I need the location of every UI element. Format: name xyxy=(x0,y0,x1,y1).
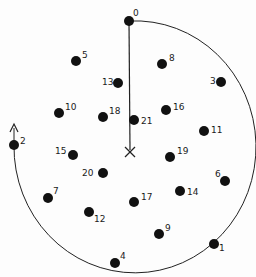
point-19: 19 xyxy=(165,146,189,162)
point-label: 3 xyxy=(210,76,216,86)
point-10: 10 xyxy=(54,102,77,118)
point-label: 10 xyxy=(65,102,77,112)
point-label: 16 xyxy=(173,102,185,112)
point-14: 14 xyxy=(175,186,199,197)
point-label: 13 xyxy=(102,77,113,87)
point-label: 2 xyxy=(20,136,26,146)
radius-line xyxy=(129,21,130,150)
point-dot xyxy=(129,197,139,207)
point-5: 5 xyxy=(71,50,88,66)
point-dot xyxy=(9,140,19,150)
point-dot xyxy=(84,207,94,217)
point-dot xyxy=(129,115,139,125)
tour-arc xyxy=(14,21,256,273)
point-label: 1 xyxy=(219,243,225,253)
point-2: 2 xyxy=(9,136,26,150)
point-dot xyxy=(165,152,175,162)
point-18: 18 xyxy=(98,106,121,122)
point-11: 11 xyxy=(199,125,222,136)
point-dot xyxy=(113,78,123,88)
point-16: 16 xyxy=(161,102,185,115)
point-dot xyxy=(43,193,53,203)
point-label: 4 xyxy=(120,251,126,261)
point-dot xyxy=(157,59,167,69)
point-7: 7 xyxy=(43,186,59,203)
point-20: 20 xyxy=(82,168,108,178)
point-dot xyxy=(161,105,171,115)
point-dot xyxy=(209,239,219,249)
point-label: 9 xyxy=(165,223,171,233)
point-dot xyxy=(220,176,230,186)
point-17: 17 xyxy=(129,192,152,207)
point-label: 5 xyxy=(82,50,88,60)
point-dot xyxy=(98,112,108,122)
point-15: 15 xyxy=(55,146,78,160)
point-label: 14 xyxy=(187,187,199,197)
point-dot xyxy=(199,126,209,136)
point-label: 18 xyxy=(109,106,121,116)
point-dot xyxy=(54,108,64,118)
point-1: 1 xyxy=(209,239,225,253)
point-13: 13 xyxy=(102,77,123,88)
point-dot xyxy=(71,56,81,66)
point-21: 21 xyxy=(129,115,152,126)
point-dot xyxy=(216,77,226,87)
point-dot xyxy=(98,168,108,178)
point-label: 8 xyxy=(169,53,175,63)
point-label: 17 xyxy=(141,192,152,202)
point-label: 11 xyxy=(211,125,222,135)
point-3: 3 xyxy=(210,76,226,87)
point-label: 15 xyxy=(55,146,66,156)
point-label: 19 xyxy=(177,146,189,156)
circle-diagram: 0123456789101112131415161718192021 xyxy=(0,0,256,277)
point-label: 20 xyxy=(82,168,94,178)
point-6: 6 xyxy=(215,169,230,186)
point-label: 7 xyxy=(53,186,59,196)
point-label: 21 xyxy=(141,116,152,126)
point-dot xyxy=(68,150,78,160)
point-dot xyxy=(154,229,164,239)
point-0: 0 xyxy=(124,8,139,26)
point-4: 4 xyxy=(110,251,126,268)
point-dot xyxy=(110,258,120,268)
point-label: 12 xyxy=(94,214,105,224)
point-12: 12 xyxy=(84,207,105,224)
point-label: 6 xyxy=(215,169,221,179)
point-9: 9 xyxy=(154,223,171,239)
point-label: 0 xyxy=(133,8,139,18)
point-dot xyxy=(175,186,185,196)
point-8: 8 xyxy=(157,53,175,69)
